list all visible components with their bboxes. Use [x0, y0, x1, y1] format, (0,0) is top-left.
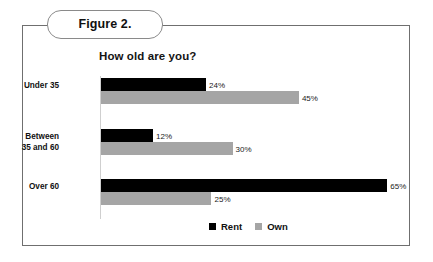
figure-label-pill: Figure 2.	[47, 10, 163, 39]
category-label-line: 35 and 60	[0, 143, 59, 154]
bar-rent[interactable]	[100, 179, 387, 192]
category-label: Under 35	[0, 81, 59, 92]
category-label: Between35 and 60	[0, 132, 59, 153]
category-label: Over 60	[0, 182, 59, 193]
legend-label-own: Own	[267, 222, 288, 232]
bar-own[interactable]	[100, 142, 233, 155]
bar-value-label: 25%	[211, 193, 249, 204]
figure-root: Figure 2. How old are you? Under 3524%45…	[0, 0, 433, 262]
bar-row: 12%	[100, 129, 398, 142]
legend-item-rent[interactable]: Rent	[209, 222, 242, 232]
legend-item-own[interactable]: Own	[255, 222, 288, 232]
chart-legend: Rent Own	[209, 222, 288, 232]
bar-row: 45%	[100, 91, 398, 104]
legend-swatch-rent-icon	[209, 223, 216, 230]
category-label-line: Under 35	[0, 81, 59, 92]
figure-label-text: Figure 2.	[79, 18, 132, 31]
bar-chart-plot: Under 3524%45%Between35 and 6012%30%Over…	[100, 78, 398, 218]
bar-row: 30%	[100, 142, 398, 155]
bar-rent[interactable]	[100, 78, 206, 91]
bar-row: 24%	[100, 78, 398, 91]
legend-label-rent: Rent	[221, 222, 242, 232]
bar-row: 25%	[100, 192, 398, 205]
bar-own[interactable]	[100, 192, 211, 205]
bar-rent[interactable]	[100, 129, 153, 142]
bar-value-label: 12%	[153, 131, 172, 140]
chart-title: How old are you?	[99, 50, 196, 62]
bar-value-label: 65%	[387, 181, 406, 190]
category-axis-line	[100, 76, 101, 219]
bar-row: 65%	[100, 179, 398, 192]
category-label-line: Between	[0, 132, 59, 143]
bar-value-label: 24%	[206, 80, 225, 89]
bar-own[interactable]	[100, 91, 299, 104]
bar-value-label: 30%	[233, 144, 252, 153]
legend-swatch-own-icon	[255, 223, 262, 230]
bar-value-label: 45%	[299, 93, 318, 102]
category-label-line: Over 60	[0, 182, 59, 193]
